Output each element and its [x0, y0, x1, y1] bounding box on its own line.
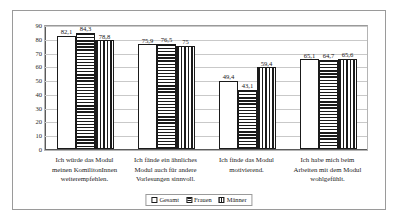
bar-group-bars: 75,976,575	[126, 25, 207, 149]
legend-swatch-icon	[151, 197, 157, 203]
bar-value-label: 75,9	[142, 38, 154, 45]
bar-value-label: 59,4	[261, 61, 273, 68]
legend-item-frauen[interactable]: Frauen	[186, 197, 212, 203]
y-axis-tick-label: 40	[35, 92, 42, 99]
bar-group-bars: 49,443,159,4	[207, 25, 288, 149]
y-axis-tick-label: 30	[35, 105, 42, 112]
legend-item-männer[interactable]: Männer	[219, 197, 247, 203]
chart-frame: 0102030405060708090 82,184,378,875,976,5…	[12, 10, 386, 210]
y-axis-tick-label: 10	[35, 133, 42, 140]
bar-frauen[interactable]: 76,5	[157, 44, 176, 149]
bar-frauen[interactable]: 43,1	[238, 90, 257, 149]
y-axis-tick-label: 60	[35, 64, 42, 71]
bar-frauen[interactable]: 64,7	[319, 60, 338, 149]
plot-area: 0102030405060708090 82,184,378,875,976,5…	[44, 25, 368, 151]
bar-group: 75,976,575	[126, 25, 207, 149]
x-axis-category-label: Ich fände ein ähnliches Modul auch für a…	[125, 155, 206, 184]
x-axis-category-label: Ich würde das Modul meinen KomilitonInne…	[44, 155, 125, 184]
y-axis-tick-label: 90	[35, 23, 42, 30]
bar-männer[interactable]: 75	[176, 46, 195, 149]
bar-männer[interactable]: 59,4	[257, 67, 276, 149]
legend-item-label: Gesamt	[159, 197, 179, 203]
legend-item-label: Frauen	[194, 197, 212, 203]
x-axis-category-label: Ich finde das Modul motivierend.	[206, 155, 287, 184]
chart-legend: GesamtFrauenMänner	[145, 194, 252, 206]
bar-group: 49,443,159,4	[207, 25, 288, 149]
x-axis-category-label: Ich habe mich beim Arbeiten mit dem Modu…	[287, 155, 368, 184]
bar-value-label: 49,4	[223, 74, 235, 81]
legend-item-gesamt[interactable]: Gesamt	[151, 197, 179, 203]
bar-value-label: 43,1	[242, 83, 254, 90]
bar-value-label: 75	[182, 39, 189, 46]
y-axis-tick-label: 20	[35, 119, 42, 126]
bar-group-bars: 65,164,765,6	[288, 25, 369, 149]
bar-gesamt[interactable]: 65,1	[300, 59, 319, 149]
bar-value-label: 76,5	[161, 37, 173, 44]
bar-männer[interactable]: 78,8	[95, 40, 114, 149]
legend-item-label: Männer	[227, 197, 247, 203]
x-axis-line	[45, 149, 367, 150]
y-axis-tick-label: 50	[35, 78, 42, 85]
bar-value-label: 84,3	[80, 26, 92, 33]
bar-gesamt[interactable]: 75,9	[138, 44, 157, 149]
bar-value-label: 65,1	[304, 53, 316, 60]
bar-frauen[interactable]: 84,3	[76, 33, 95, 149]
y-axis-tick-label: 80	[35, 36, 42, 43]
bar-gesamt[interactable]: 82,1	[57, 36, 76, 149]
y-axis-tick-label: 0	[39, 147, 42, 154]
bar-group: 82,184,378,8	[45, 25, 126, 149]
bar-value-label: 64,7	[323, 53, 335, 60]
bar-group: 65,164,765,6	[288, 25, 369, 149]
legend-swatch-icon	[219, 197, 225, 203]
bar-value-label: 82,1	[61, 29, 73, 36]
bar-gesamt[interactable]: 49,4	[219, 81, 238, 149]
bar-group-bars: 82,184,378,8	[45, 25, 126, 149]
bar-männer[interactable]: 65,6	[338, 59, 357, 149]
legend-swatch-icon	[186, 197, 192, 203]
bar-value-label: 65,6	[342, 52, 354, 59]
y-axis-tick-label: 70	[35, 50, 42, 57]
x-axis-category-labels: Ich würde das Modul meinen KomilitonInne…	[44, 155, 368, 184]
bar-value-label: 78,8	[99, 34, 111, 41]
